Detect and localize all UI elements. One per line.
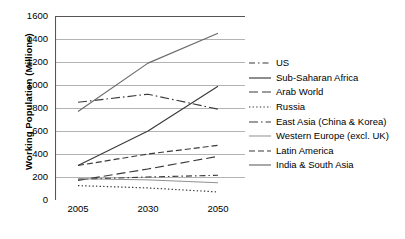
y-tick-label-1000: 1000	[16, 80, 48, 90]
legend-line-swatch-icon	[249, 102, 271, 112]
legend-line-swatch-icon	[249, 58, 271, 68]
legend-line-swatch-icon	[249, 160, 271, 170]
legend-item-russia[interactable]: Russia	[249, 100, 405, 115]
chart-legend: USSub-Saharan AfricaArab WorldRussiaEast…	[249, 56, 405, 173]
y-tick-label-800: 800	[16, 103, 48, 113]
x-tick-label-2005: 2005	[54, 203, 102, 214]
x-tick-label-2050: 2050	[194, 203, 242, 214]
legend-line-swatch-icon	[249, 87, 271, 97]
legend-line-swatch-icon	[249, 117, 271, 127]
legend-item-label: India & South Asia	[276, 160, 354, 170]
legend-item-label: Russia	[276, 102, 305, 112]
y-tick-label-1600: 1600	[16, 11, 48, 21]
legend-item-label: Arab World	[276, 87, 323, 97]
legend-item-latin-america[interactable]: Latin America	[249, 144, 405, 159]
legend-line-swatch-icon	[249, 146, 271, 156]
legend-line-swatch-icon	[249, 131, 271, 141]
series-line-sub-saharan-africa	[78, 86, 218, 165]
legend-item-sub-saharan-africa[interactable]: Sub-Saharan Africa	[249, 71, 405, 86]
legend-item-us[interactable]: US	[249, 56, 405, 71]
legend-item-label: Western Europe (excl. UK)	[276, 131, 389, 141]
legend-line-swatch-icon	[249, 73, 271, 83]
y-tick-label-0: 0	[16, 195, 48, 205]
legend-item-east-asia-china-korea[interactable]: East Asia (China & Korea)	[249, 114, 405, 129]
legend-item-label: East Asia (China & Korea)	[276, 117, 386, 127]
legend-item-western-europe-excl-uk[interactable]: Western Europe (excl. UK)	[249, 129, 405, 144]
series-line-western-europe-excl-uk	[78, 179, 218, 183]
y-tick-label-200: 200	[16, 172, 48, 182]
y-tick-label-1200: 1200	[16, 57, 48, 67]
plot-area	[55, 16, 245, 200]
legend-item-label: US	[276, 58, 289, 68]
x-tick-label-2030: 2030	[124, 203, 172, 214]
series-line-russia	[78, 186, 218, 192]
legend-item-arab-world[interactable]: Arab World	[249, 85, 405, 100]
legend-item-label: Sub-Saharan Africa	[276, 73, 358, 83]
legend-item-india-south-asia[interactable]: India & South Asia	[249, 158, 405, 173]
y-tick-label-600: 600	[16, 126, 48, 136]
chart-figure: Working Population (Millions) 1600140012…	[0, 0, 405, 239]
legend-item-label: Latin America	[276, 146, 334, 156]
plot-canvas	[55, 16, 245, 200]
y-tick-label-1400: 1400	[16, 34, 48, 44]
y-tick-label-400: 400	[16, 149, 48, 159]
